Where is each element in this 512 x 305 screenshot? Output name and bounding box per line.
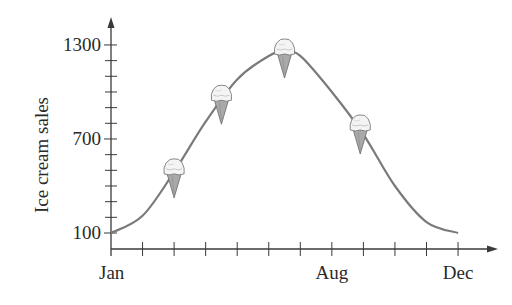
y-tick-label: 100 xyxy=(73,222,102,243)
x-tick-label: Jan xyxy=(99,262,125,283)
ice-cream-cone-icon xyxy=(350,115,371,154)
y-axis-arrow-icon xyxy=(108,17,115,28)
ice-cream-cone-icon xyxy=(211,85,232,124)
tick-labels: 1007001300JanAugDec xyxy=(63,34,473,283)
x-tick-label: Aug xyxy=(315,262,348,283)
ice-cream-cone-icon xyxy=(274,39,295,78)
y-axis-title: Ice cream sales xyxy=(31,97,52,213)
axes xyxy=(104,17,498,256)
ice-cream-sales-chart: 1007001300JanAugDec Ice cream sales xyxy=(0,0,512,305)
ice-cream-cone-icon xyxy=(164,159,185,198)
ice-cream-markers xyxy=(164,39,371,198)
x-axis-arrow-icon xyxy=(487,246,498,253)
x-tick-label: Dec xyxy=(443,262,474,283)
y-tick-label: 1300 xyxy=(63,34,101,55)
y-tick-label: 700 xyxy=(73,128,102,149)
